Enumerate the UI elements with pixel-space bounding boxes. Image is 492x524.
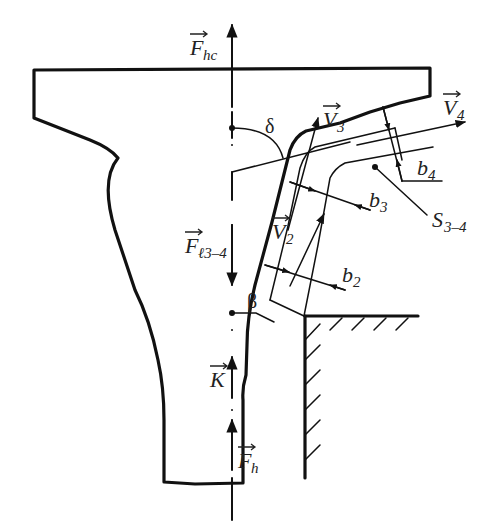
label-V3: V 3 xyxy=(323,103,345,135)
wall-hatched xyxy=(305,316,418,478)
label-F-hc: F hc xyxy=(189,31,218,63)
svg-text:4: 4 xyxy=(457,107,465,123)
svg-text:S: S xyxy=(432,207,443,232)
svg-text:2: 2 xyxy=(286,231,294,247)
label-b3: b 3 xyxy=(369,187,388,215)
label-b4: b 4 xyxy=(417,155,436,183)
svg-text:3: 3 xyxy=(336,119,345,135)
svg-text:b: b xyxy=(369,187,380,212)
label-S34: S 3–4 xyxy=(432,207,467,235)
svg-text:b: b xyxy=(342,262,353,287)
svg-text:3–4: 3–4 xyxy=(443,219,467,235)
v2-arrow xyxy=(290,214,324,286)
svg-text:F: F xyxy=(189,35,204,60)
svg-text:hc: hc xyxy=(203,47,218,63)
svg-text:b: b xyxy=(417,155,428,180)
label-b2: b 2 xyxy=(342,262,361,290)
svg-text:h: h xyxy=(251,460,259,476)
label-delta: δ xyxy=(265,115,274,137)
label-K: K xyxy=(209,363,227,392)
svg-text:K: K xyxy=(209,367,226,392)
label-beta: β xyxy=(247,290,257,313)
label-F-h: F h xyxy=(237,444,259,476)
svg-text:F: F xyxy=(237,448,252,473)
label-V4: V 4 xyxy=(443,91,465,123)
svg-text:F: F xyxy=(184,233,199,258)
flow-force-diagram: F hc F ℓ3–4 K F h V 2 V 3 V 4 b 2 b 3 b xyxy=(0,0,492,524)
svg-text:ℓ3–4: ℓ3–4 xyxy=(198,245,227,261)
b2-dimension xyxy=(265,265,345,290)
v3-arrow xyxy=(288,118,318,230)
svg-text:4: 4 xyxy=(428,167,436,183)
b3-dimension xyxy=(290,182,370,210)
label-F-l34: F ℓ3–4 xyxy=(184,229,227,261)
beta-angle xyxy=(232,313,274,322)
center-axis xyxy=(229,25,235,520)
svg-text:2: 2 xyxy=(353,274,361,290)
svg-text:3: 3 xyxy=(379,199,388,215)
